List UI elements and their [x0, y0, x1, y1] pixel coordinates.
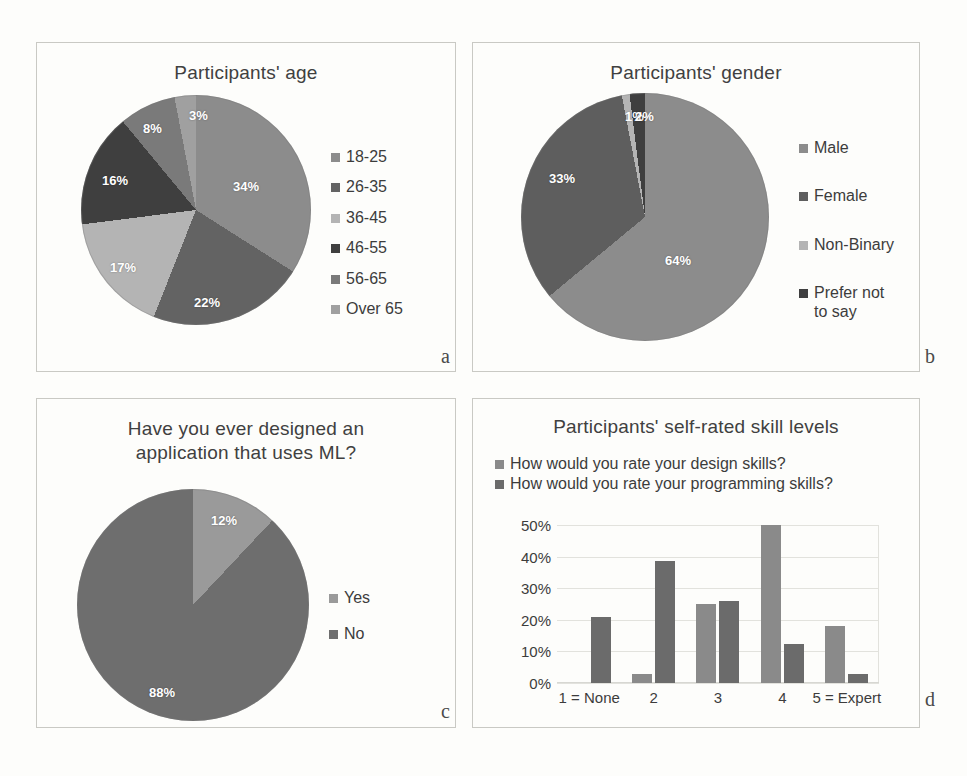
panel-letter-a: a	[441, 345, 450, 368]
panel-participants-gender: Participants' gender 64% 33% 1% 2% Male …	[472, 42, 920, 372]
legend-label: Female	[814, 187, 867, 205]
pie-slices-age	[81, 95, 311, 325]
legend-skills: How would you rate your design skills? H…	[495, 455, 833, 496]
y-axis-tick-label: 20%	[521, 611, 551, 628]
legend-item-prefer-not-to-say[interactable]: Prefer not to say	[799, 284, 894, 321]
legend-item-programming-skills[interactable]: How would you rate your programming skil…	[495, 475, 833, 493]
legend-label: 46-55	[346, 239, 387, 257]
pie-label-male: 64%	[665, 253, 691, 268]
panel-letter-b: b	[925, 345, 935, 368]
legend-item-yes[interactable]: Yes	[329, 589, 370, 607]
legend-swatch-icon	[799, 241, 808, 250]
panel-letter-c: c	[441, 700, 450, 723]
bar-chart-plot-area: 0%10%20%30%40%50%1 = None2345 = Expert	[557, 525, 879, 683]
chart-title-ml-line2: application that uses ML?	[81, 441, 411, 465]
legend-swatch-icon	[331, 183, 340, 192]
pie-label-prefer-not-to-say: 2%	[635, 109, 654, 124]
bar[interactable]	[655, 561, 675, 683]
pie-label-26-35: 22%	[194, 295, 220, 310]
legend-age: 18-25 26-35 36-45 46-55 56-65 Over 65	[331, 148, 403, 330]
legend-label: Male	[814, 139, 849, 157]
legend-item-design-skills[interactable]: How would you rate your design skills?	[495, 455, 833, 473]
pie-chart-gender: 64% 33% 1% 2%	[521, 93, 769, 341]
gridline	[557, 683, 879, 684]
panel-self-rated-skill-levels: Participants' self-rated skill levels Ho…	[472, 398, 920, 728]
y-axis-tick-label: 0%	[529, 675, 551, 692]
legend-item-male[interactable]: Male	[799, 139, 894, 157]
legend-item-36-45[interactable]: 36-45	[331, 209, 403, 227]
y-axis-tick-label: 50%	[521, 517, 551, 534]
legend-item-18-25[interactable]: 18-25	[331, 148, 403, 166]
legend-gender: Male Female Non-Binary Prefer not to say	[799, 139, 894, 333]
pie-label-56-65: 8%	[143, 121, 162, 136]
y-axis-tick-label: 10%	[521, 643, 551, 660]
legend-item-non-binary[interactable]: Non-Binary	[799, 236, 894, 254]
pie-label-yes: 12%	[211, 513, 237, 528]
legend-swatch-icon	[331, 214, 340, 223]
bar[interactable]	[591, 617, 611, 683]
legend-label: Non-Binary	[814, 236, 894, 254]
y-axis-tick-label: 30%	[521, 580, 551, 597]
legend-item-56-65[interactable]: 56-65	[331, 270, 403, 288]
legend-label: 36-45	[346, 209, 387, 227]
pie-label-46-55: 16%	[102, 173, 128, 188]
pie-chart-age: 34% 22% 17% 16% 8% 3%	[81, 95, 311, 325]
legend-swatch-icon	[331, 153, 340, 162]
legend-label: 56-65	[346, 270, 387, 288]
panel-letter-d: d	[925, 688, 935, 711]
legend-label: 26-35	[346, 178, 387, 196]
bar[interactable]	[719, 601, 739, 683]
pie-label-36-45: 17%	[110, 260, 136, 275]
bar[interactable]	[784, 644, 804, 684]
chart-title-age: Participants' age	[37, 61, 455, 85]
bar-group: 4	[750, 525, 814, 683]
figure-container: Participants' age 34% 22% 17% 16% 8% 3% …	[0, 0, 967, 776]
y-axis-tick-label: 40%	[521, 548, 551, 565]
x-axis-tick-label: 3	[714, 689, 722, 706]
legend-swatch-icon	[329, 630, 338, 639]
bar-group: 1 = None	[557, 525, 621, 683]
chart-title-skills: Participants' self-rated skill levels	[473, 415, 919, 439]
legend-swatch-icon	[495, 460, 504, 469]
legend-swatch-icon	[331, 305, 340, 314]
legend-swatch-icon	[495, 480, 504, 489]
legend-label: Yes	[344, 589, 370, 607]
chart-title-ml-line1: Have you ever designed an	[81, 417, 411, 441]
bar[interactable]	[848, 674, 868, 683]
panel-designed-ml-application: Have you ever designed an application th…	[36, 398, 456, 728]
bar[interactable]	[761, 525, 781, 683]
chart-title-ml: Have you ever designed an application th…	[37, 417, 455, 465]
pie-label-no: 88%	[149, 685, 175, 700]
bar[interactable]	[825, 626, 845, 683]
legend-item-female[interactable]: Female	[799, 187, 894, 205]
bar[interactable]	[632, 674, 652, 683]
legend-swatch-icon	[799, 289, 808, 298]
panel-participants-age: Participants' age 34% 22% 17% 16% 8% 3% …	[36, 42, 456, 372]
chart-title-gender: Participants' gender	[473, 61, 919, 85]
pie-slices-ml	[77, 489, 309, 721]
legend-label: How would you rate your programming skil…	[510, 475, 833, 493]
bar-group: 5 = Expert	[815, 525, 879, 683]
legend-item-over-65[interactable]: Over 65	[331, 300, 403, 318]
legend-swatch-icon	[331, 275, 340, 284]
legend-label: No	[344, 625, 364, 643]
pie-slices-gender	[521, 93, 769, 341]
legend-item-46-55[interactable]: 46-55	[331, 239, 403, 257]
pie-chart-ml: 12% 88%	[77, 489, 309, 721]
legend-item-26-35[interactable]: 26-35	[331, 178, 403, 196]
legend-label: 18-25	[346, 148, 387, 166]
pie-label-female: 33%	[549, 171, 575, 186]
legend-swatch-icon	[331, 244, 340, 253]
x-axis-tick-label: 5 = Expert	[812, 689, 881, 706]
x-axis-tick-label: 1 = None	[559, 689, 620, 706]
bar-group: 3	[686, 525, 750, 683]
legend-label: How would you rate your design skills?	[510, 455, 786, 473]
legend-ml: Yes No	[329, 589, 370, 656]
x-axis-tick-label: 4	[778, 689, 786, 706]
legend-item-no[interactable]: No	[329, 625, 370, 643]
legend-label: Prefer not to say	[814, 284, 884, 321]
legend-swatch-icon	[799, 192, 808, 201]
pie-label-18-25: 34%	[233, 179, 259, 194]
pie-label-over-65: 3%	[189, 108, 208, 123]
bar[interactable]	[696, 604, 716, 683]
